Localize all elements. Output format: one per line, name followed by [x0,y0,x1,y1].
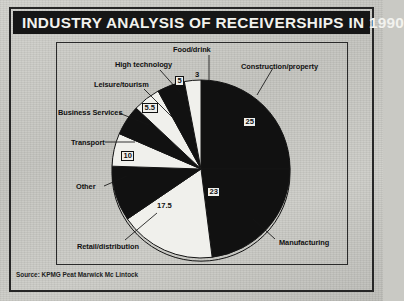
slice-value-retail: 17.5 [156,202,173,210]
source-note: Source: KPMG Peat Marwick Mc Lintock [16,271,138,278]
slice-value-fooddrink: 3 [194,71,200,79]
pie-chart: 25 23 17.5 10 6 5.5 5 5 3 Food/drink Hig… [57,43,347,264]
label-retail-distribution: Retail/distribution [77,242,139,251]
slice-value-leisure: 5 [161,88,167,96]
slice-value-business: 5.5 [142,103,158,113]
slice-value-manufacturing: 23 [207,187,220,197]
label-manufacturing: Manufacturing [279,238,329,247]
slice-value-construction: 25 [243,117,256,127]
slice-value-hightech: 5 [175,76,184,86]
pie-slice-manufacturing [201,169,290,257]
leader-line [257,68,273,95]
label-food-drink: Food/drink [173,45,211,54]
pie-chart-svg [57,43,349,266]
label-high-technology: High technology [115,60,172,69]
label-business-services: Business Services [58,108,122,117]
slice-value-transport: 6 [132,122,138,130]
slice-value-other: 10 [121,151,134,161]
page-title: INDUSTRY ANALYSIS OF RECEIVERSHIPS IN 19… [22,14,404,32]
label-other: Other [76,182,95,191]
label-construction-property: Construction/property [241,62,318,71]
title-bar: INDUSTRY ANALYSIS OF RECEIVERSHIPS IN 19… [13,11,370,34]
plot-area-box: 25 23 17.5 10 6 5.5 5 5 3 Food/drink Hig… [56,42,348,265]
label-transport: Transport [71,138,105,147]
label-leisure-tourism: Leisure/tourism [94,80,149,89]
